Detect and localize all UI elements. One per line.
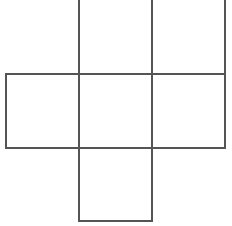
net-square-group	[6, 1, 225, 221]
net-square-bottom-middle	[79, 148, 152, 221]
net-square-middle-right	[152, 74, 225, 148]
net-square-middle-left	[6, 74, 79, 148]
net-square-top-middle	[79, 1, 152, 74]
cube-net-diagram	[0, 0, 232, 226]
diagram-canvas	[0, 0, 232, 226]
net-square-middle-center	[79, 74, 152, 148]
net-square-top-right	[152, 1, 225, 74]
